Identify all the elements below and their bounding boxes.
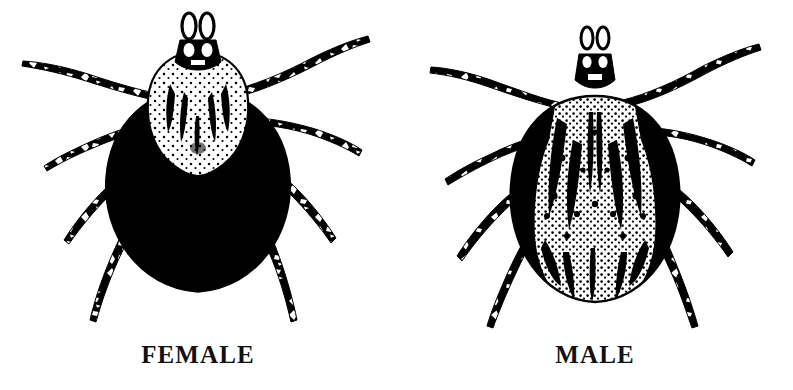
female-tick-illustration [0, 0, 396, 340]
specimen-label-female: FEMALE [0, 341, 396, 369]
female-capitulum [175, 13, 221, 70]
specimen-panel-male: MALE [397, 0, 793, 390]
male-capitulum [575, 27, 615, 88]
specimen-panel-female: FEMALE [0, 0, 396, 390]
tick-comparison-figure: FEMALE [0, 0, 793, 390]
specimen-label-male: MALE [397, 341, 793, 369]
male-tick-illustration [397, 0, 793, 340]
